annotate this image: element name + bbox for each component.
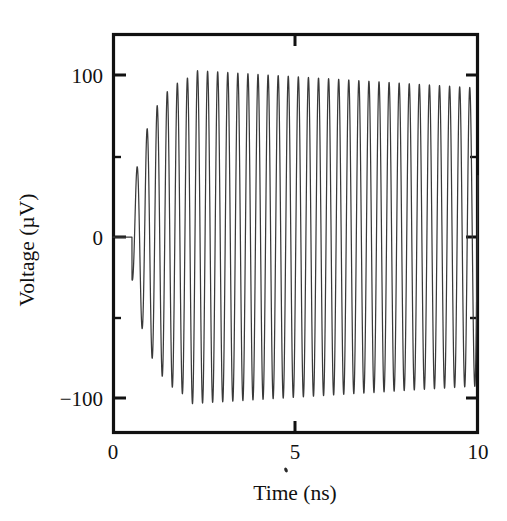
y-tick-label-minus-100: −100 [60, 387, 103, 411]
voltage-time-chart: 0 5 10 100 0 −100 Time (ns) Voltage (µV) [0, 0, 507, 521]
scan-speck-artifact [283, 467, 288, 473]
y-tick-label-100: 100 [72, 64, 104, 88]
x-tick-label-5: 5 [290, 440, 301, 464]
x-tick-label-10: 10 [468, 440, 489, 464]
y-tick-label-0: 0 [93, 226, 104, 250]
x-tick-label-0: 0 [108, 440, 119, 464]
x-axis-title: Time (ns) [253, 481, 336, 505]
y-axis-title: Voltage (µV) [15, 194, 39, 307]
figure-container: 0 5 10 100 0 −100 Time (ns) Voltage (µV) [0, 0, 507, 521]
voltage-waveform-trace [113, 71, 478, 404]
